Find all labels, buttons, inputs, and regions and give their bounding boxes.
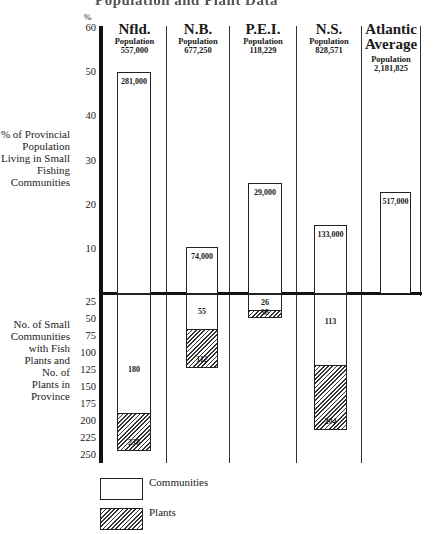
tick-b25: 25 xyxy=(66,296,96,307)
population-value: 557,000 xyxy=(103,46,166,55)
axis-title-line: No. of xyxy=(0,366,70,378)
bar-pct-nfld: 281,000 xyxy=(117,72,151,294)
axis-title-line: Plants and xyxy=(0,354,70,366)
axis-title-line: Communities xyxy=(0,176,70,188)
axis-title-line: Fishing xyxy=(0,164,70,176)
tick-b175: 175 xyxy=(66,398,96,409)
tick-20: 20 xyxy=(66,199,96,210)
column-header-pei: P.E.I. Population 118,229 xyxy=(230,22,296,55)
bar-communities-ns: 113 xyxy=(314,294,347,366)
column-divider xyxy=(166,26,167,463)
tick-10: 10 xyxy=(66,243,96,254)
axis-title-line: Plants in xyxy=(0,378,70,390)
bar-communities-nb: 55 xyxy=(186,294,218,330)
bar-pct-nb: 74,000 xyxy=(186,247,218,294)
column-header-atlantic: Atlantic Average Population 2,181,825 xyxy=(362,22,420,73)
tick-60: 60 xyxy=(66,22,96,33)
tick-b75: 75 xyxy=(66,330,96,341)
tick-b225: 225 xyxy=(66,432,96,443)
tick-b150: 150 xyxy=(66,381,96,392)
bar-label: 74,000 xyxy=(187,252,217,261)
column-name: Nfld. xyxy=(103,22,166,37)
chart-title: Population and Plant Data xyxy=(95,0,355,9)
bar-pct-ns: 133,000 xyxy=(314,225,347,294)
bottom-axis-title: No. of Small Communities with Fish Plant… xyxy=(0,318,70,402)
population-value: 118,229 xyxy=(230,46,296,55)
axis-title-line: with Fish xyxy=(0,342,70,354)
column-name: Average xyxy=(362,37,420,52)
bar-label: 204 xyxy=(315,417,346,426)
top-axis-title: % of Provincial Population Living in Sma… xyxy=(0,128,70,188)
tick-b200: 200 xyxy=(66,415,96,426)
bar-label: 55 xyxy=(187,307,217,316)
bar-label: 38 xyxy=(249,308,281,317)
legend-swatch-communities xyxy=(100,478,143,500)
population-value: 677,250 xyxy=(167,46,229,55)
axis-title-line: No. of Small xyxy=(0,318,70,330)
legend-label: Plants xyxy=(149,506,176,518)
tick-30: 30 xyxy=(66,155,96,166)
bar-label: 29,000 xyxy=(249,188,281,197)
tick-b100: 100 xyxy=(66,347,96,358)
column-divider xyxy=(229,26,230,463)
column-header-nfld: Nfld. Population 557,000 xyxy=(103,22,166,55)
bar-label: 112 xyxy=(187,355,217,364)
legend-swatch-plants xyxy=(100,508,143,530)
y-axis-line xyxy=(99,26,103,463)
column-name: N.S. xyxy=(297,22,361,37)
bar-pct-pei: 29,000 xyxy=(248,183,282,294)
axis-title-line: Population xyxy=(0,140,70,152)
column-header-ns: N.S. Population 828,571 xyxy=(297,22,361,55)
column-divider xyxy=(361,26,362,463)
tick-50: 50 xyxy=(66,66,96,77)
bar-plants-nb: 112 xyxy=(186,329,218,368)
bar-label: 238 xyxy=(118,438,150,447)
bar-communities-nfld: 180 xyxy=(117,294,151,414)
tick-40: 40 xyxy=(66,110,96,121)
bar-label: 113 xyxy=(315,317,346,326)
column-header-nb: N.B. Population 677,250 xyxy=(167,22,229,55)
bar-label: 281,000 xyxy=(118,77,150,86)
bar-label: 133,000 xyxy=(315,230,346,239)
bar-label: 26 xyxy=(249,298,281,307)
bar-label: 517,000 xyxy=(381,197,410,206)
column-divider xyxy=(296,26,297,463)
percent-unit-label: % xyxy=(84,12,92,22)
bar-plants-pei: 38 xyxy=(248,310,282,318)
column-name: N.B. xyxy=(167,22,229,37)
population-value: 2,181,825 xyxy=(362,64,420,73)
bar-plants-ns: 204 xyxy=(314,365,347,430)
population-value: 828,571 xyxy=(297,46,361,55)
tick-b250: 250 xyxy=(66,449,96,460)
tick-b50: 50 xyxy=(66,313,96,324)
axis-title-line: Province xyxy=(0,390,70,402)
tick-b125: 125 xyxy=(66,364,96,375)
axis-title-line: Communities xyxy=(0,330,70,342)
bar-plants-nfld: 238 xyxy=(117,413,151,451)
axis-title-line: Living in Small xyxy=(0,152,70,164)
bar-label: 180 xyxy=(118,365,150,374)
column-name: P.E.I. xyxy=(230,22,296,37)
column-name: Atlantic xyxy=(362,22,420,37)
axis-title-line: % of Provincial xyxy=(0,128,70,140)
bar-pct-atlantic: 517,000 xyxy=(380,192,411,294)
column-divider xyxy=(420,26,421,296)
legend-label: Communities xyxy=(149,476,208,488)
